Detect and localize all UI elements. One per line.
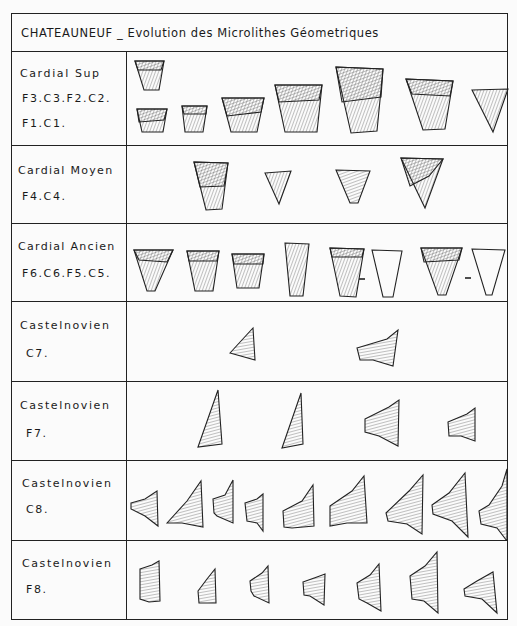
- layers-label: F7.: [26, 427, 48, 440]
- microlith-triangle: [265, 171, 291, 204]
- microlith-asymmetric-trapeze: [386, 475, 423, 534]
- microlith-triangle: [472, 89, 508, 132]
- figure-title: CHATEAUNEUF _ Evolution des Microlithes …: [21, 26, 379, 40]
- microlith-trapeze: [285, 243, 309, 296]
- microlith-profile: [472, 249, 505, 295]
- microlith-drawings: [127, 382, 507, 460]
- label-cell: Castelnovien C8.: [12, 461, 127, 540]
- microlith-asymmetric-trapeze: [230, 328, 255, 360]
- label-cell: Cardial Ancien F6.C6.F5.C5.: [12, 224, 127, 301]
- microlith-asymmetric-trapeze: [479, 469, 507, 541]
- row-castelnovien-f8: Castelnovien F8.: [12, 541, 507, 619]
- microlith-drawings: [127, 302, 507, 381]
- layers-label-2: F1.C1.: [22, 117, 67, 130]
- microlith-drawings: [127, 541, 507, 619]
- layers-label: F6.C6.F5.C5.: [22, 267, 111, 280]
- microlith-trapeze: [448, 408, 475, 441]
- microlith-triangle: [336, 170, 370, 203]
- layers-label: C7.: [26, 347, 49, 360]
- microlith-asymmetric-trapeze: [250, 566, 269, 603]
- row-castelnovien-f7: Castelnovien F7.: [12, 382, 507, 461]
- layers-label: F3.C3.F2.C2.: [22, 92, 111, 105]
- label-cell: Cardial Moyen F4.C4.: [12, 146, 127, 223]
- microlith-triangle: [282, 393, 303, 448]
- row-castelnovien-c8: Castelnovien C8.: [12, 461, 507, 541]
- microlith-asymmetric-trapeze: [131, 491, 158, 526]
- title-bar: CHATEAUNEUF _ Evolution des Microlithes …: [12, 14, 507, 52]
- label-cell: Cardial Sup F3.C3.F2.C2. F1.C1.: [12, 52, 127, 145]
- microlith-asymmetric-trapeze: [140, 561, 160, 602]
- microlith-asymmetric-trapeze: [464, 572, 497, 613]
- microlith-drawings: [127, 146, 507, 223]
- phase-label: Castelnovien: [22, 557, 113, 570]
- row-cardial-moyen: Cardial Moyen F4.C4.: [12, 146, 507, 224]
- chart-frame: CHATEAUNEUF _ Evolution des Microlithes …: [11, 13, 508, 620]
- microlith-drawings: [127, 461, 507, 540]
- phase-label: Castelnovien: [20, 399, 111, 412]
- layers-label: F4.C4.: [22, 190, 67, 203]
- microlith-triangle: [198, 390, 222, 447]
- microlith-asymmetric-trapeze: [283, 485, 314, 528]
- layers-label: F8.: [26, 583, 48, 596]
- microlith-asymmetric-trapeze: [330, 476, 367, 526]
- phase-label: Cardial Moyen: [18, 164, 113, 177]
- microlith-asymmetric-trapeze: [357, 330, 398, 366]
- microlith-asymmetric-trapeze: [213, 480, 233, 523]
- row-castelnovien-c7: Castelnovien C7.: [12, 302, 507, 382]
- microlith-drawings: [127, 52, 507, 145]
- phase-label: Cardial Sup: [20, 67, 101, 80]
- label-cell: Castelnovien F7.: [12, 382, 127, 460]
- microlith-trapeze: [365, 400, 399, 446]
- microlith-asymmetric-trapeze: [198, 569, 216, 603]
- layers-label: C8.: [26, 503, 49, 516]
- microlith-asymmetric-trapeze: [357, 564, 381, 611]
- microlith-trapeze: [135, 61, 164, 90]
- microlith-asymmetric-trapeze: [432, 473, 468, 537]
- microlith-asymmetric-trapeze: [245, 494, 263, 531]
- label-cell: Castelnovien C7.: [12, 302, 127, 381]
- label-cell: Castelnovien F8.: [12, 541, 127, 619]
- microlith-profile: [372, 250, 402, 297]
- phase-label: Castelnovien: [22, 477, 113, 490]
- row-cardial-sup: Cardial Sup F3.C3.F2.C2. F1.C1.: [12, 52, 507, 146]
- row-cardial-ancien: Cardial Ancien F6.C6.F5.C5.: [12, 224, 507, 302]
- microlith-asymmetric-trapeze: [167, 481, 203, 527]
- microlith-asymmetric-trapeze: [410, 552, 438, 613]
- microlith-asymmetric-trapeze: [303, 574, 325, 605]
- phase-label: Castelnovien: [20, 319, 111, 332]
- microlith-drawings: [127, 224, 507, 301]
- phase-label: Cardial Ancien: [18, 240, 116, 253]
